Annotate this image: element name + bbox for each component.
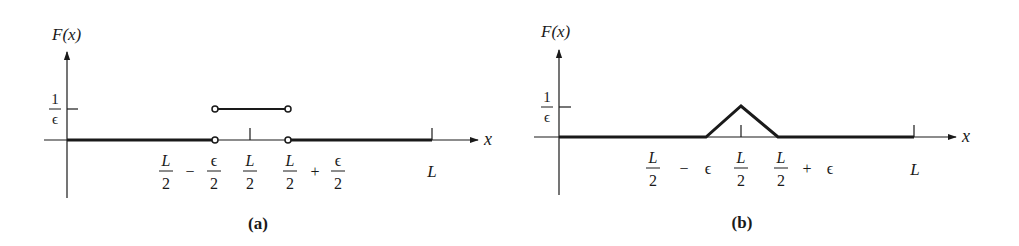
frac-den: 2 <box>777 172 785 189</box>
open-circle-top-right <box>285 106 291 112</box>
plus-operator: + <box>310 163 319 180</box>
y-tick-label-b: 1 ϵ <box>541 89 553 125</box>
frac-den: 2 <box>210 175 218 192</box>
y-axis-label-a: F(x) <box>51 25 82 44</box>
y-tick-numerator: 1 <box>51 91 59 107</box>
x-axis-label-a: x <box>483 129 492 149</box>
panel-a: F(x) x 1 ϵ L 2 − ϵ <box>44 25 492 233</box>
x-tick-labels-a: L 2 − ϵ 2 L 2 L 2 + ϵ 2 L <box>159 152 437 192</box>
panel-caption-a: (a) <box>248 214 268 233</box>
x-tick-label-L: L <box>909 160 919 179</box>
frac-num: L <box>776 149 786 166</box>
panel-caption-b: (b) <box>732 213 753 232</box>
minus-operator: − <box>679 160 688 177</box>
frac-num: L <box>648 149 658 166</box>
frac-den: 2 <box>649 172 657 189</box>
frac-num: L <box>736 149 746 166</box>
open-circle-bottom-right <box>285 137 291 143</box>
frac-den: 2 <box>286 175 294 192</box>
y-tick-denominator: ϵ <box>52 111 58 127</box>
frac-num: ϵ <box>335 152 342 169</box>
x-axis-label-b: x <box>961 126 970 146</box>
x-tick-label-L: L <box>426 162 436 181</box>
panel-b: F(x) x 1 ϵ L 2 − ϵ L 2 <box>534 22 970 232</box>
frac-den: 2 <box>246 175 254 192</box>
open-circle-bottom-left <box>212 137 218 143</box>
frac-den: 2 <box>162 175 170 192</box>
frac-num: ϵ <box>211 152 218 169</box>
epsilon-label: ϵ <box>705 160 712 177</box>
frac-num: L <box>161 152 171 169</box>
epsilon-label: ϵ <box>827 160 834 177</box>
plus-operator: + <box>802 160 811 177</box>
y-tick-label-a: 1 ϵ <box>49 91 61 127</box>
frac-den: 2 <box>334 175 342 192</box>
y-axis-label-b: F(x) <box>540 22 571 41</box>
frac-num: L <box>245 152 255 169</box>
minus-operator: − <box>185 163 194 180</box>
x-tick-labels-b: L 2 − ϵ L 2 L 2 + ϵ L <box>646 149 920 189</box>
frac-num: L <box>285 152 295 169</box>
graph-triangle-b <box>559 106 914 137</box>
y-tick-numerator: 1 <box>543 89 551 105</box>
figure-canvas: F(x) x 1 ϵ L 2 − ϵ <box>0 0 1019 246</box>
y-tick-denominator: ϵ <box>544 109 550 125</box>
open-circle-top-left <box>212 106 218 112</box>
frac-den: 2 <box>737 172 745 189</box>
